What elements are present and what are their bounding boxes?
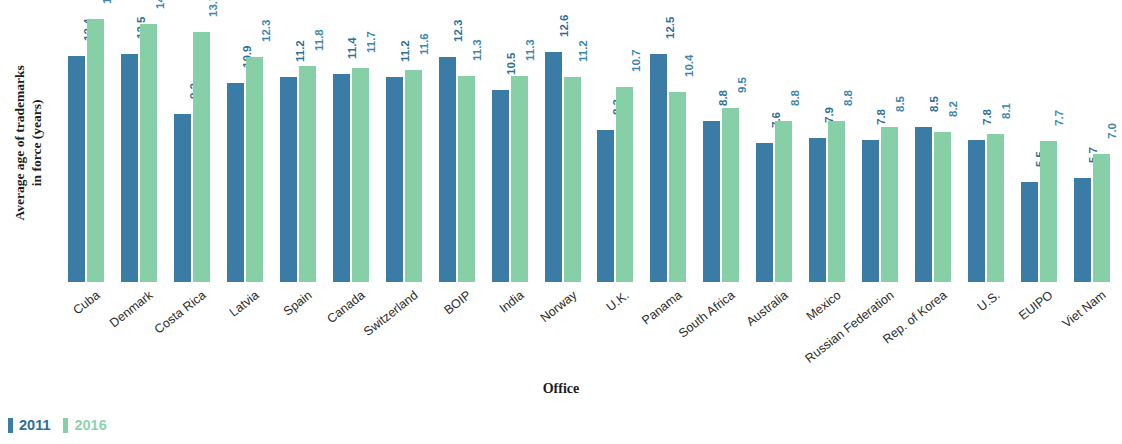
x-tick-label-latvia[interactable]: Latvia: [227, 288, 262, 320]
bar-value-label-wrap: 9.2: [174, 6, 191, 282]
bar-group: 12.510.4: [650, 6, 686, 282]
x-tick-label-panama[interactable]: Panama: [640, 288, 685, 328]
bar-value-label-wrap: 10.5: [492, 6, 509, 282]
bar-group: 11.211.6: [386, 6, 422, 282]
bar-group: 7.98.8: [809, 6, 845, 282]
x-tick-label-australia[interactable]: Australia: [744, 288, 791, 329]
bar-value-label-wrap: 8.8: [828, 6, 845, 282]
x-tick-label-costa-rica[interactable]: Costa Rica: [152, 288, 209, 337]
bar-value-label: 10.7: [630, 49, 642, 71]
x-tick-label-boip[interactable]: BOIP: [441, 288, 473, 317]
bar-group: 5.77.0: [1074, 6, 1110, 282]
bar-value-label: 11.3: [471, 39, 483, 61]
bar-value-label-wrap: 12.5: [650, 6, 667, 282]
bar-value-label-wrap: 7.9: [809, 6, 826, 282]
legend-item-2011[interactable]: 2011: [8, 417, 50, 433]
legend-label-2011: 2011: [19, 417, 50, 433]
chart-legend: 2011 2016: [8, 417, 120, 433]
x-tick-label-switzerland[interactable]: Switzerland: [361, 288, 421, 339]
bar-group: 7.88.5: [862, 6, 898, 282]
bar-group: 12.611.2: [545, 6, 581, 282]
bar-value-label-wrap: 12.5: [121, 6, 138, 282]
bar-value-label-wrap: 11.3: [511, 6, 528, 282]
bar-value-label-wrap: 8.8: [775, 6, 792, 282]
x-axis-tick-labels: CubaDenmarkCosta RicaLatviaSpainCanadaSw…: [60, 284, 1118, 379]
bar-chart-figure: Average age of trademarks in force (year…: [0, 0, 1122, 444]
x-tick-label-canada[interactable]: Canada: [324, 288, 367, 326]
x-tick-label-euipo[interactable]: EUIPO: [1016, 288, 1055, 323]
bar-value-label: 10.4: [683, 55, 695, 77]
bar-value-label-wrap: 12.6: [545, 6, 562, 282]
bar-value-label-wrap: 12.3: [246, 6, 263, 282]
bar-value-label: 8.8: [789, 90, 801, 106]
y-axis-title-line2: in force (years): [29, 99, 44, 186]
bar-value-label: 11.3: [524, 39, 536, 61]
bar-group: 12.514.1: [121, 6, 157, 282]
bar-group: 10.511.3: [492, 6, 528, 282]
bar-value-label: 8.5: [894, 96, 906, 112]
bar-group: 7.88.1: [968, 6, 1004, 282]
bar-group: 8.310.7: [597, 6, 633, 282]
bar-value-label-wrap: 8.5: [915, 6, 932, 282]
bar-value-label-wrap: 7.7: [1040, 6, 1057, 282]
bar-value-label-wrap: 11.2: [280, 6, 297, 282]
bar-group: 8.58.2: [915, 6, 951, 282]
bar-value-label-wrap: 7.8: [862, 6, 879, 282]
bar-value-label: 7.7: [1053, 110, 1065, 126]
x-tick-label-india[interactable]: India: [496, 288, 526, 316]
bar-value-label-wrap: 11.3: [458, 6, 475, 282]
legend-swatch-2011: [8, 418, 13, 433]
x-tick-label-denmark[interactable]: Denmark: [107, 288, 156, 330]
legend-item-2016[interactable]: 2016: [63, 417, 106, 433]
bar-value-label: 8.2: [947, 101, 959, 117]
bar-value-label-wrap: 11.7: [352, 6, 369, 282]
bar-value-label-wrap: 10.4: [669, 6, 686, 282]
x-axis-title: Office: [0, 381, 1122, 397]
bar-value-label-wrap: 8.2: [934, 6, 951, 282]
bar-value-label-wrap: 11.2: [564, 6, 581, 282]
bar-group: 8.89.5: [703, 6, 739, 282]
bar-value-label: 13.7: [207, 0, 219, 17]
bar-value-label-wrap: 12.4: [68, 6, 85, 282]
bar-value-label-wrap: 8.3: [597, 6, 614, 282]
bar-value-label: 9.5: [736, 77, 748, 93]
x-tick-label-norway[interactable]: Norway: [537, 288, 579, 325]
bar-value-label: 8.1: [1000, 103, 1012, 119]
bar-value-label: 7.0: [1106, 123, 1118, 139]
bar-value-label-wrap: 13.7: [193, 6, 210, 282]
x-tick-label-viet-nam[interactable]: Viet Nam: [1059, 288, 1108, 331]
x-tick-label-south-africa[interactable]: South Africa: [676, 288, 738, 341]
legend-swatch-2016: [63, 418, 68, 433]
bar-value-label-wrap: 11.2: [386, 6, 403, 282]
bar-group: 5.57.7: [1021, 6, 1057, 282]
plot-area: 12.414.412.514.19.213.710.912.311.211.81…: [60, 6, 1118, 282]
x-tick-label-cuba[interactable]: Cuba: [71, 288, 103, 317]
bar-value-label: 11.7: [365, 32, 377, 54]
legend-label-2016: 2016: [74, 417, 106, 433]
x-tick-label-u-k-[interactable]: U.K.: [604, 288, 632, 314]
x-tick-label-mexico[interactable]: Mexico: [804, 288, 844, 323]
bar-value-label: 11.8: [313, 30, 325, 52]
bar-value-label-wrap: 7.8: [968, 6, 985, 282]
bar-value-label-wrap: 10.7: [616, 6, 633, 282]
bar-value-label-wrap: 11.6: [405, 6, 422, 282]
bar-value-label: 8.8: [842, 90, 854, 106]
bar-value-label: 11.2: [577, 41, 589, 63]
bar-value-label-wrap: 8.8: [703, 6, 720, 282]
bar-group: 12.311.3: [439, 6, 475, 282]
bar-value-label-wrap: 11.4: [333, 6, 350, 282]
y-axis-title: Average age of trademarks in force (year…: [0, 0, 58, 285]
bar-value-label-wrap: 8.1: [987, 6, 1004, 282]
x-tick-label-spain[interactable]: Spain: [281, 288, 315, 319]
bar-value-label-wrap: 11.8: [299, 6, 316, 282]
bar-value-label-wrap: 14.1: [140, 6, 157, 282]
y-axis-title-line1: Average age of trademarks: [12, 65, 27, 220]
bar-value-label-wrap: 5.7: [1074, 6, 1091, 282]
bar-value-label: 11.6: [418, 33, 430, 55]
x-tick-label-russian-federation[interactable]: Russian Federation: [803, 288, 897, 366]
bar-value-label-wrap: 7.6: [756, 6, 773, 282]
bar-group: 11.211.8: [280, 6, 316, 282]
bar-group: 7.68.8: [756, 6, 792, 282]
x-tick-label-u-s-[interactable]: U.S.: [975, 288, 1003, 314]
bar-group: 12.414.4: [68, 6, 104, 282]
